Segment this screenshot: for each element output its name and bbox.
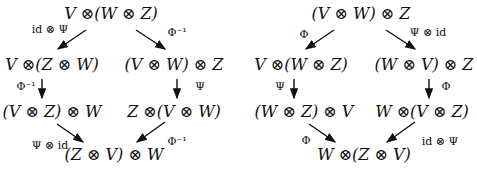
right-label-mid-left-to-low-left: Ψ [275,80,285,93]
right-label-mid-right-to-low-right: Φ [441,80,450,93]
right-label-low-right-to-bottom: id ⊗ Ψ [422,135,458,148]
right-node-mid-left: V ⊗(W ⊗ Z) [254,55,348,74]
left-node-mid-right: (V ⊗ W) ⊗ Z [125,55,224,74]
left-node-low-right: Z ⊗(V ⊗ W) [127,102,221,121]
left-label-top-to-mid-left: id ⊗ Ψ [32,23,68,36]
left-label-low-left-to-bottom: Ψ ⊗ id [32,139,68,152]
left-label-low-right-to-bottom: Φ⁻¹ [167,135,186,148]
left-label-top-to-mid-right: Φ⁻¹ [167,26,186,39]
right-node-low-left: (W ⊗ Z) ⊗ V [255,102,354,121]
right-label-low-left-to-bottom: Φ [301,134,310,147]
right-node-bottom: W ⊗(Z ⊗ V) [317,145,411,164]
right-label-top-to-mid-right: Ψ ⊗ id [410,26,446,39]
arrow-top-to-mid-left [306,30,334,49]
left-node-bottom: (Z ⊗ V) ⊗ W [65,145,164,164]
right-node-top: (V ⊗ W) ⊗ Z [312,4,411,23]
left-label-mid-right-to-low-right: Ψ [195,80,205,93]
left-node-mid-left: V ⊗(Z ⊗ W) [5,55,99,74]
arrow-low-right-to-bottom [137,122,165,142]
left-node-top: V ⊗(W ⊗ Z) [64,4,158,23]
left-node-low-left: (V ⊗ Z) ⊗ W [3,102,102,121]
arrow-low-left-to-bottom [309,124,335,142]
arrow-top-to-mid-right [136,30,165,49]
right-node-low-right: W ⊗(V ⊗ Z) [375,102,469,121]
left-label-mid-left-to-low-left: Φ⁻¹ [16,80,35,93]
arrow-low-right-to-bottom [387,122,415,142]
right-label-top-to-mid-left: Φ [299,28,308,41]
right-node-mid-right: (W ⊗ V) ⊗ Z [375,55,474,74]
